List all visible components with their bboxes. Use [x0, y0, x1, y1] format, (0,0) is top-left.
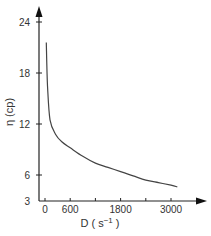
x-axis-arrow-icon [196, 198, 207, 205]
y-axis-label: η (cp) [3, 98, 15, 126]
y-tick-label: 18 [19, 68, 31, 79]
x-axis-label: D ( s−1 ) [80, 216, 119, 229]
x-tick-label: 600 [62, 204, 79, 215]
y-axis-arrow-icon [36, 6, 43, 17]
y-tick-label: 24 [19, 17, 31, 28]
y-tick-label: 6 [24, 170, 30, 181]
axes [39, 14, 200, 201]
x-tick-label: 0 [42, 204, 48, 215]
data-curve [46, 42, 177, 187]
y-tick-label: 3 [24, 196, 30, 207]
x-tick-label: 3000 [160, 204, 183, 215]
x-tick-label: 1800 [109, 204, 132, 215]
viscosity-chart: 36121824 060018003000 η (cp) D ( s−1 ) [0, 0, 211, 236]
y-tick-label: 12 [19, 119, 31, 130]
